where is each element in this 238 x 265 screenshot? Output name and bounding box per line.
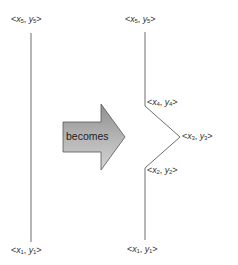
left-bottom-label: <x1, y1> (11, 245, 41, 255)
right-p2-label: <x2, y2> (147, 165, 177, 175)
right-p5-label: <x5, y5> (125, 14, 155, 24)
right-p3-label: <x3, y3> (182, 131, 212, 141)
arrow-label: becomes (66, 130, 109, 142)
left-top-label: <x5, y5> (11, 14, 41, 24)
right-p4-label: <x4, y4> (147, 97, 177, 107)
right-polyline (145, 32, 180, 240)
right-p1-label: <x1, y1> (127, 244, 157, 254)
